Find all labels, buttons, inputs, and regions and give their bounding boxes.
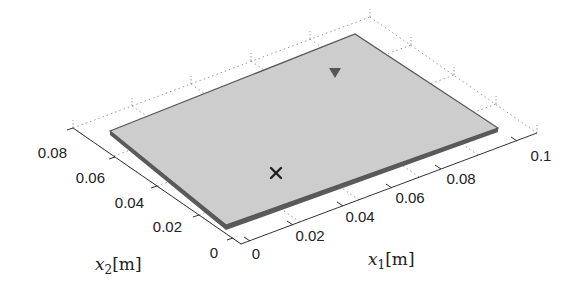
x1-axis-label: x1[m]: [368, 249, 415, 272]
svg-text:0.02: 0.02: [295, 227, 324, 244]
svg-text:0.06: 0.06: [395, 189, 424, 206]
svg-text:0.06: 0.06: [76, 169, 105, 186]
svg-text:0.08: 0.08: [38, 144, 67, 161]
x2-axis-label: x2[m]: [95, 254, 142, 277]
svg-text:0: 0: [210, 244, 218, 261]
svg-text:0.02: 0.02: [153, 218, 182, 235]
svg-text:0.1: 0.1: [531, 147, 552, 164]
svg-text:0.04: 0.04: [115, 194, 144, 211]
svg-text:0.08: 0.08: [446, 170, 475, 187]
svg-text:0.04: 0.04: [345, 208, 374, 225]
plate-surface: [110, 34, 498, 225]
plate-figure: 0.08 0.06 0.04 0.02 0 0 0.02 0.04 0.06 0…: [0, 0, 572, 291]
svg-text:0: 0: [252, 245, 260, 262]
